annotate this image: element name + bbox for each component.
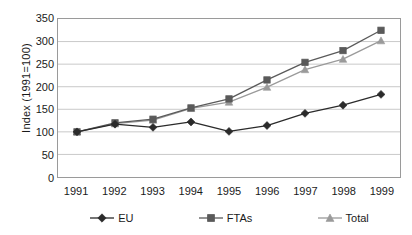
- legend-marker-square-icon: [198, 212, 224, 224]
- data-point-marker: [339, 101, 347, 109]
- series-layer: [58, 19, 400, 177]
- series-ftas: [74, 27, 384, 135]
- y-tick-label: 0: [20, 172, 54, 184]
- chart-legend: EUFTAsTotal: [57, 208, 401, 228]
- series-line: [77, 41, 381, 132]
- x-tick-label: 1999: [360, 184, 404, 198]
- x-axis-tick-labels: 199119921993199419951996199719981999: [57, 184, 401, 200]
- data-point-marker: [339, 55, 347, 62]
- legend-label: FTAs: [227, 212, 252, 224]
- legend-marker-diamond-icon: [89, 212, 115, 224]
- legend-label: EU: [118, 212, 133, 224]
- data-point-marker: [150, 116, 156, 122]
- y-tick-label: 200: [20, 81, 54, 93]
- data-point-marker: [187, 118, 195, 126]
- data-point-marker: [377, 37, 385, 44]
- y-tick-label: 50: [20, 149, 54, 161]
- legend-item-eu[interactable]: EU: [89, 212, 133, 224]
- data-point-marker: [263, 122, 271, 130]
- data-point-marker: [340, 47, 346, 53]
- legend-marker-triangle-icon: [317, 212, 343, 224]
- plot-area: [57, 18, 401, 178]
- data-point-marker: [226, 96, 232, 102]
- data-point-marker: [149, 123, 157, 131]
- data-point-marker: [302, 59, 308, 65]
- y-axis-tick-labels: 050100150200250300350: [16, 18, 54, 178]
- y-tick-label: 350: [20, 12, 54, 24]
- data-point-marker: [378, 27, 384, 33]
- y-tick-label: 250: [20, 58, 54, 70]
- legend-item-total[interactable]: Total: [317, 212, 369, 224]
- series-line: [77, 30, 381, 132]
- data-point-marker: [301, 109, 309, 117]
- data-point-marker: [207, 215, 214, 222]
- data-point-marker: [264, 77, 270, 83]
- data-point-marker: [98, 214, 106, 222]
- legend-item-ftas[interactable]: FTAs: [198, 212, 252, 224]
- y-tick-label: 300: [20, 35, 54, 47]
- data-point-marker: [188, 105, 194, 111]
- data-point-marker: [225, 127, 233, 135]
- y-tick-label: 100: [20, 126, 54, 138]
- line-chart: Index (1991=100) 050100150200250300350 1…: [0, 0, 412, 235]
- data-point-marker: [377, 90, 385, 98]
- data-point-marker: [263, 83, 271, 90]
- legend-label: Total: [346, 212, 369, 224]
- y-tick-label: 150: [20, 103, 54, 115]
